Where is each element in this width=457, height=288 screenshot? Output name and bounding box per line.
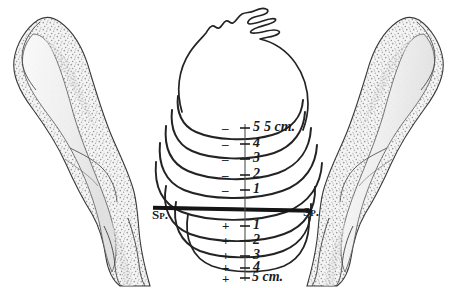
scale-sign-minus-2: – (222, 168, 229, 181)
scale-label-plus-2: 2 (253, 233, 260, 247)
station-arc-plus3 (187, 214, 309, 272)
scale-sign-minus-5: – (222, 121, 229, 134)
scale-label-minus-1: 1 (253, 182, 260, 196)
scale-label-minus-4: 4 (253, 136, 260, 150)
scale-label-minus-3: 3 (253, 151, 260, 165)
left-innominate-bone (14, 18, 150, 286)
scale-unit-top: 5 cm. (264, 120, 295, 134)
station-arc-group (156, 96, 322, 272)
scale-label-minus-5: 5 (253, 120, 260, 134)
station-arc-minus4 (172, 110, 305, 158)
spine-label-left: Sp. (152, 208, 168, 221)
right-innominate-bone (307, 18, 443, 286)
scale-sign-plus-5: + (222, 272, 229, 285)
scale-sign-minus-3: – (222, 152, 229, 165)
spine-label-right: Sp. (303, 205, 319, 218)
fetal-head-outline (179, 8, 308, 130)
station-arc-minus2 (160, 143, 317, 198)
scale-sign-minus-1: – (222, 183, 229, 196)
scale-unit-bottom: 5 cm. (252, 270, 283, 284)
scale-label-minus-2: 2 (253, 167, 260, 181)
figure-canvas: – 5 5 cm. – 4 – 3 – 2 – 1 + 1 + 2 + 3 + … (0, 0, 457, 288)
scale-label-plus-1: 1 (253, 218, 260, 232)
scale-sign-plus-1: + (222, 219, 229, 232)
scale-sign-plus-2: + (222, 234, 229, 247)
scale-sign-minus-4: – (222, 137, 229, 150)
